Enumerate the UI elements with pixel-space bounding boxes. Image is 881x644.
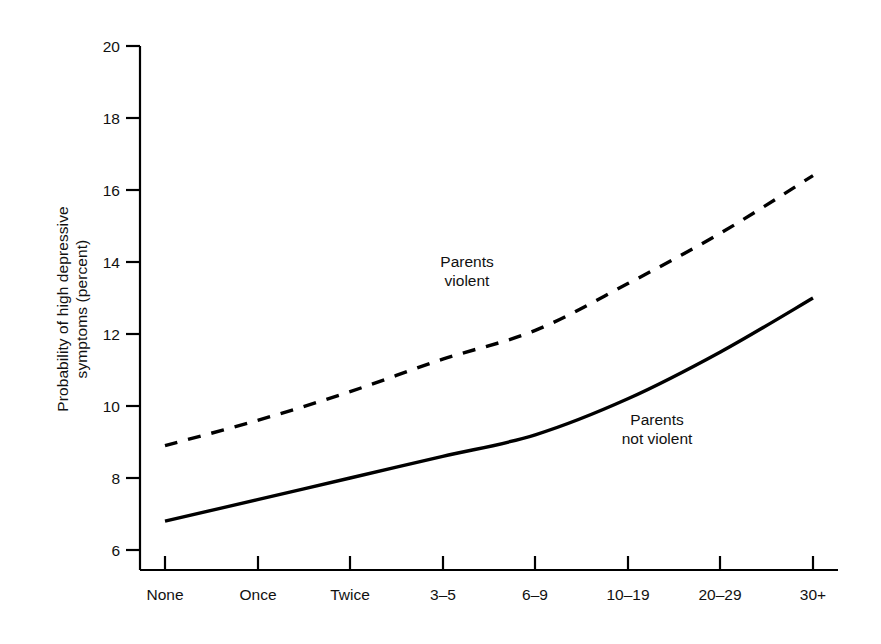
series-line-parents-not-violent: [165, 298, 813, 521]
plot-area: [0, 0, 881, 644]
line-chart-figure: Probability of high depressive symptoms …: [0, 0, 881, 644]
x-axis: [140, 556, 838, 570]
y-axis: [126, 46, 140, 570]
chart-page: Probability of high depressive symptoms …: [0, 0, 881, 644]
series-line-parents-violent: [165, 176, 813, 446]
